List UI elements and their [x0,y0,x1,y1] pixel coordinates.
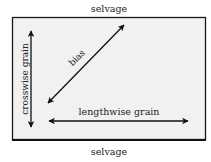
diagram-canvas: selvage selvage bias crosswise grain len… [0,0,211,162]
selvage-bottom-label: selvage [91,146,128,157]
selvage-top-label: selvage [91,3,128,14]
crosswise-grain-label: crosswise grain [20,43,30,115]
lengthwise-grain-label: lengthwise grain [79,106,160,117]
fabric-grain-diagram: selvage selvage bias crosswise grain len… [0,0,211,162]
